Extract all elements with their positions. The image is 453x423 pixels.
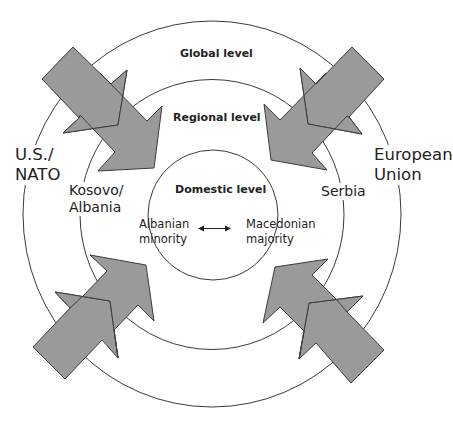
actor-eu-line2: Union	[374, 165, 453, 185]
actor-kosovo-line1: Kosovo/	[69, 182, 123, 199]
domestic-level-label: Domestic level	[175, 183, 266, 196]
regional-level-label: Regional level	[173, 111, 261, 124]
actor-macedonian-majority: Macedonian majority	[246, 217, 316, 247]
domestic-level-ring	[148, 150, 278, 280]
arrow-segment-outer	[299, 296, 384, 383]
actor-eu-line1: European	[374, 145, 453, 165]
actor-us-nato-line2: NATO	[15, 165, 60, 185]
actor-macedonian-line2: majority	[246, 232, 316, 247]
actor-albanian-line2: minority	[139, 232, 189, 247]
actor-macedonian-line1: Macedonian	[246, 217, 316, 232]
actor-albanian-line1: Albanian	[139, 217, 189, 232]
pressure-arrow-top-right	[264, 47, 384, 170]
actor-european-union: European Union	[374, 145, 453, 185]
actor-albanian-minority: Albanian minority	[139, 217, 189, 247]
actor-serbia: Serbia	[321, 183, 366, 200]
global-level-label: Global level	[180, 47, 253, 60]
actor-kosovo-albania: Kosovo/ Albania	[69, 182, 123, 216]
double-headed-arrow-icon	[198, 224, 231, 233]
actor-kosovo-line2: Albania	[69, 199, 123, 216]
pressure-arrow-bottom-right	[263, 259, 384, 383]
actor-us-nato: U.S./ NATO	[15, 145, 60, 185]
actor-us-nato-line1: U.S./	[15, 145, 60, 165]
